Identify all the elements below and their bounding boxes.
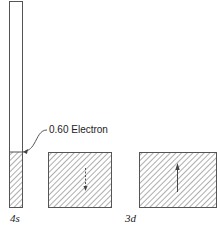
leader-line (23, 130, 47, 152)
orbital-3d-box-1 (49, 153, 112, 208)
orbital-diagram (0, 0, 223, 233)
label-4s: 4s (10, 212, 20, 224)
filled-portion (10, 152, 23, 208)
label-3d: 3d (125, 212, 136, 224)
electron-annotation: 0.60 Electron (49, 124, 108, 135)
orbital-4s-column (10, 2, 23, 208)
orbital-3d-box-2 (140, 153, 217, 208)
